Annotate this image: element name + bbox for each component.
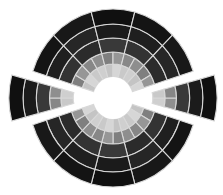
disc-cell (91, 9, 135, 27)
disc-cell (50, 98, 62, 110)
disc-cell (201, 75, 218, 121)
disc-cell (152, 89, 165, 98)
center-hole (93, 77, 133, 119)
disc-cell (36, 82, 51, 113)
disc-cell (61, 98, 74, 107)
disc-cell (188, 79, 203, 117)
disc-cell (91, 169, 135, 187)
disc-cell (152, 98, 165, 107)
disc-cell (61, 89, 74, 98)
disc-cell (95, 156, 131, 172)
radial-disc-diagram (0, 0, 223, 195)
disc-cell (98, 142, 127, 158)
disc-cell (50, 86, 62, 98)
disc-cell (175, 82, 190, 113)
disc-cell (23, 79, 38, 117)
disc-cell (164, 86, 176, 98)
disc-cell (9, 75, 26, 121)
segmented-radial-disc-figure (0, 0, 223, 195)
disc-cell (98, 38, 127, 54)
disc-cell (95, 24, 131, 40)
disc-cell (164, 98, 176, 110)
